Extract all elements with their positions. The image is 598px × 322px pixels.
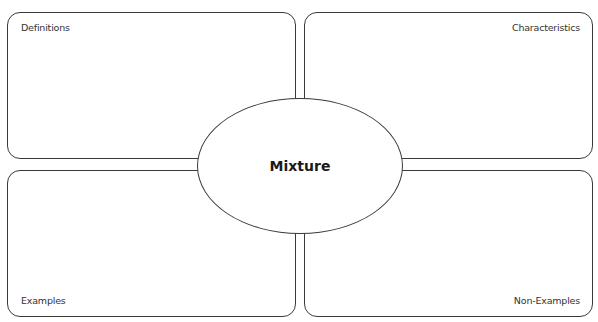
characteristics-label: Characteristics (512, 22, 580, 33)
non-examples-label: Non-Examples (514, 295, 580, 306)
examples-label: Examples (21, 295, 66, 306)
center-term: Mixture (270, 158, 331, 174)
definitions-label: Definitions (21, 22, 70, 33)
center-term-ellipse: Mixture (197, 98, 403, 234)
